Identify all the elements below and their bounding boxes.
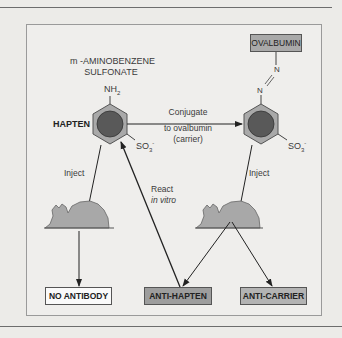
conjugate-line3: (carrier) xyxy=(148,134,228,145)
so-subscript-left: 3 xyxy=(149,147,152,153)
amine-subscript: 2 xyxy=(117,90,120,96)
so-text-right: SO xyxy=(288,141,301,151)
conjugate-benzene-ring-icon xyxy=(244,104,278,144)
conjugate-line1: Conjugate xyxy=(148,107,228,118)
anti-carrier-box: ANTI-CARRIER xyxy=(240,287,307,305)
sulfonate-bond-right xyxy=(278,134,287,140)
azo-n-top: N xyxy=(274,64,280,75)
conjugate-line2: to ovalbumin xyxy=(148,123,228,134)
inject-right-label: Inject xyxy=(249,168,269,179)
sulfonate-bond-left xyxy=(127,134,135,140)
anti-hapten-arrow xyxy=(183,222,230,286)
so-superscript-right: - xyxy=(304,140,306,146)
sulfonate-label-right: SO3- xyxy=(288,138,306,156)
hapten-benzene-ring-icon xyxy=(93,104,127,144)
compound-label-line1: m -AMINOBENZENE xyxy=(70,56,152,67)
anti-carrier-arrow xyxy=(232,222,272,286)
azo-double-bond-a xyxy=(265,75,272,84)
hapten-label: HAPTEN xyxy=(53,119,90,130)
amine-label: NH2 xyxy=(104,84,120,99)
react-in-vitro-label: in vitro xyxy=(151,195,176,206)
azo-n-bottom: N xyxy=(257,85,263,96)
amine-text: NH xyxy=(104,84,117,94)
compound-label: m -AMINOBENZENE SULFONATE xyxy=(70,56,152,78)
react-in-vitro-arrow xyxy=(121,142,180,287)
no-antibody-box: NO ANTIBODY xyxy=(45,287,112,305)
compound-label-line2: SULFONATE xyxy=(70,67,152,78)
so-subscript-right: 3 xyxy=(301,147,304,153)
inject-left-label: Inject xyxy=(64,168,84,179)
anti-hapten-box: ANTI-HAPTEN xyxy=(144,287,212,305)
azo-double-bond-b xyxy=(267,77,274,86)
mouse-left-icon xyxy=(44,201,114,228)
react-label: React xyxy=(151,184,173,195)
ovalbumin-box: OVALBUMIN xyxy=(250,34,302,52)
conjugate-label: Conjugate to ovalbumin (carrier) xyxy=(148,109,228,145)
